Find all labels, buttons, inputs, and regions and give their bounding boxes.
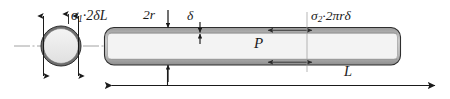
hoop-stress-expression: ·2δL [83,8,108,23]
cross-section-ring [41,26,81,66]
wall-thickness-label: δ [187,9,193,23]
diameter-label: 2r [143,8,155,22]
longitudinal-stress-symbol: σ [311,8,318,23]
length-label: L [344,64,352,79]
longitudinal-stress-label: σ2·2πrδ [311,9,351,24]
pressure-vessel-diagram: σ1·2δL 2r δ P σ2·2πrδ L [0,0,450,99]
diagram-canvas [0,0,450,99]
length-dimension-line [112,68,435,86]
longitudinal-stress-expression: ·2πrδ [322,8,350,23]
cylinder-body [105,28,401,66]
pressure-label: P [254,36,263,51]
hoop-stress-label: σ1·2δL [71,9,107,25]
hoop-stress-symbol: σ [71,8,78,23]
